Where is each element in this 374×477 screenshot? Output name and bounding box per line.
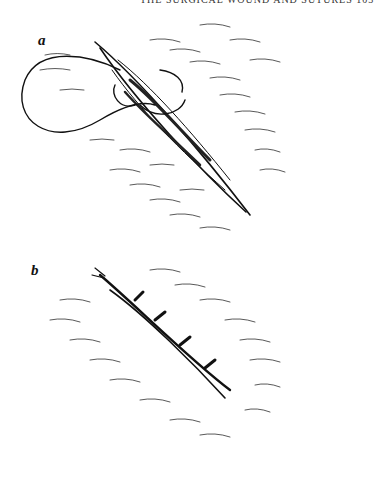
figure-b-skin-lines (50, 269, 280, 437)
figure-a-incision (22, 42, 250, 215)
figure-b-closed-wound (92, 268, 230, 398)
